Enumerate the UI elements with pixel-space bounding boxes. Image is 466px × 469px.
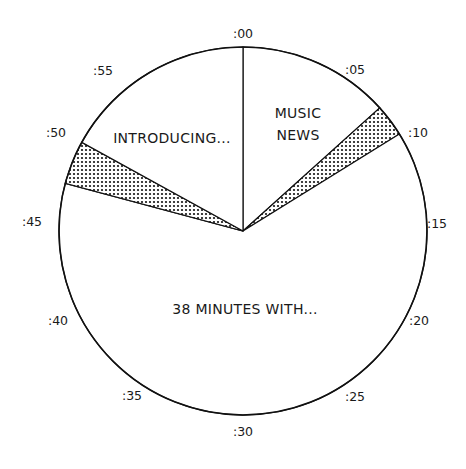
slice-label-music-news-line2: NEWS [276,127,319,143]
tick-label: :45 [22,214,42,229]
slice-label-music-news-line1: MUSIC [275,105,322,121]
slice-label-introducing: INTRODUCING... [113,130,231,146]
tick-label: :10 [408,125,428,140]
tick-label: :55 [93,63,113,78]
tick-label: :35 [122,388,142,403]
tick-label: :05 [345,62,365,77]
tick-label: :50 [46,125,66,140]
program-clock-pie-chart: :00:05:10:15:20:25:30:35:40:45:50:55 MUS… [0,0,466,469]
pie-slices [59,47,427,415]
tick-label: :15 [427,216,447,231]
tick-label: :25 [345,389,365,404]
tick-label: :30 [233,424,253,439]
tick-label: :20 [409,313,429,328]
tick-label: :40 [48,313,68,328]
slice-label-38-minutes-with: 38 MINUTES WITH... [172,301,317,317]
tick-label: :00 [233,26,253,41]
